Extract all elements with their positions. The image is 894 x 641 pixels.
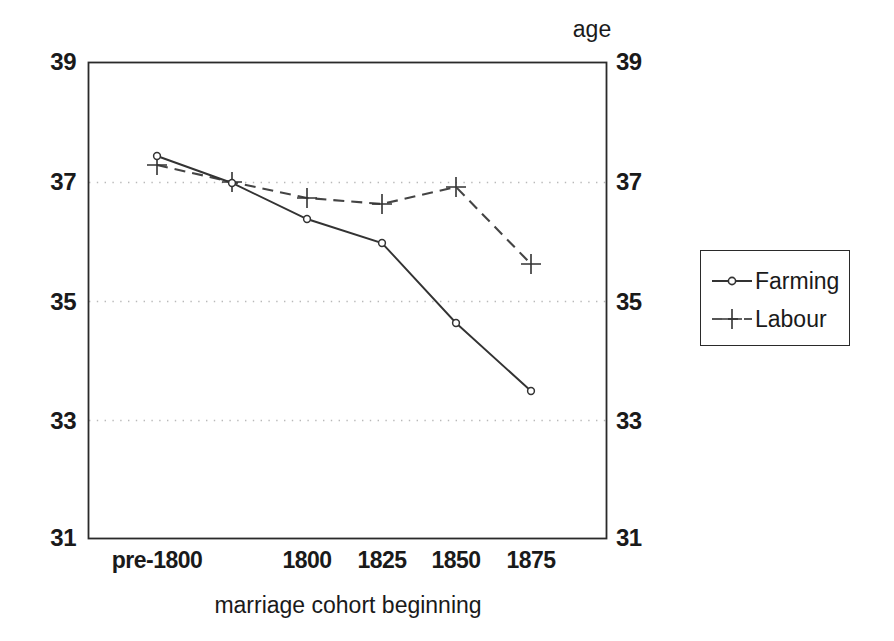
y-axis-right-tick-37: 37 xyxy=(616,168,642,196)
y-axis-left-tick-39: 39 xyxy=(28,48,76,76)
chart-page: 39 37 35 33 31 39 37 35 33 31 pre-1800 1… xyxy=(0,0,894,641)
x-axis-tick-pre-1800: pre-1800 xyxy=(112,547,203,574)
y-axis-left-tick-33: 33 xyxy=(28,407,76,435)
y-axis-right-tick-33: 33 xyxy=(616,407,642,435)
legend-item-labour[interactable]: Labour xyxy=(701,301,849,337)
circle-marker-icon xyxy=(154,153,161,160)
farming-line xyxy=(157,156,531,391)
y-axis-right-tick-35: 35 xyxy=(616,288,642,316)
circle-marker-icon xyxy=(229,180,236,187)
circle-marker-icon xyxy=(379,240,386,247)
y-axis-left-tick-31: 31 xyxy=(28,524,76,552)
plus-marker-icon xyxy=(372,194,392,214)
y-axis-title: age xyxy=(573,16,611,43)
x-axis-tick-1800: 1800 xyxy=(282,547,331,574)
circle-marker-icon xyxy=(528,388,535,395)
farming-markers xyxy=(154,153,535,395)
circle-marker-icon xyxy=(304,216,311,223)
x-axis-title: marriage cohort beginning xyxy=(214,592,481,619)
gridlines xyxy=(89,183,606,421)
y-axis-right-tick-31: 31 xyxy=(616,524,642,552)
legend-item-farming[interactable]: Farming xyxy=(701,263,849,299)
chart-legend: Farming Labour xyxy=(700,250,850,346)
legend-sample-farming xyxy=(709,269,755,293)
legend-sample-labour xyxy=(709,307,755,331)
plus-marker-icon xyxy=(722,309,742,329)
plot-frame xyxy=(89,63,607,539)
y-axis-right-tick-39: 39 xyxy=(616,48,642,76)
x-axis-tick-1850: 1850 xyxy=(431,547,480,574)
x-axis-tick-1875: 1875 xyxy=(506,547,555,574)
legend-label-labour: Labour xyxy=(755,308,827,331)
x-axis-tick-1825: 1825 xyxy=(357,547,406,574)
circle-marker-icon xyxy=(453,320,460,327)
circle-marker-icon xyxy=(728,277,735,284)
series-farming xyxy=(154,153,535,395)
legend-label-farming: Farming xyxy=(755,270,839,293)
y-axis-left-tick-37: 37 xyxy=(28,168,76,196)
y-axis-left-tick-35: 35 xyxy=(28,288,76,316)
labour-line xyxy=(157,165,531,264)
plus-marker-icon xyxy=(297,188,317,208)
